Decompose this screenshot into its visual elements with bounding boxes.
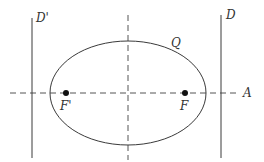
directrix-right-label: D xyxy=(225,8,236,22)
diagram-canvas: D' D Q F' F A xyxy=(0,0,264,162)
focus-left-label: F' xyxy=(59,99,72,113)
curve-label: Q xyxy=(171,36,181,50)
focus-right-point xyxy=(182,90,188,96)
focus-left-point xyxy=(63,90,69,96)
focus-right-label: F xyxy=(179,99,189,113)
axis-label: A xyxy=(242,86,252,100)
ellipse-diagram: D' D Q F' F A xyxy=(0,0,264,162)
directrix-left-label: D' xyxy=(35,11,49,25)
